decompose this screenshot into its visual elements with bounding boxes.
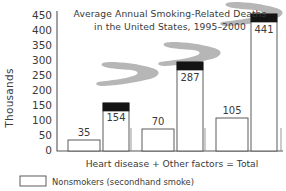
bar-value-heart-disease-smokers: 154 <box>106 112 125 123</box>
bar-value-heart-disease-nonsmokers: 35 <box>78 127 91 138</box>
y-tick-100: 100 <box>32 114 52 126</box>
y-tick-300: 300 <box>32 54 52 66</box>
y-tick-0: 0 <box>45 144 52 156</box>
y-tick-400: 400 <box>32 24 52 36</box>
y-tick-250: 250 <box>32 69 52 81</box>
bar-value-total-smokers: 441 <box>254 24 273 35</box>
bar-value-other-factors-nonsmokers: 70 <box>152 116 165 127</box>
cigarette-cap-heart-disease <box>103 103 129 111</box>
bar-other-factors-nonsmokers[interactable] <box>142 129 174 151</box>
x-axis-caption: Heart disease + Other factors = Total <box>86 158 259 169</box>
y-tick-50: 50 <box>39 129 52 141</box>
chart-svg: Thousands 450 400 350 300 250 200 150 10… <box>0 0 286 191</box>
chart-title-line2: in the United States, 1995–2000 <box>94 21 246 32</box>
smoking-deaths-bar-chart: Thousands 450 400 350 300 250 200 150 10… <box>0 0 286 191</box>
y-tick-450: 450 <box>32 9 52 21</box>
y-axis-title: Thousands <box>3 68 15 129</box>
y-tick-200: 200 <box>32 84 52 96</box>
legend-label-nonsmokers: Nonsmokers (secondhand smoke) <box>52 177 194 187</box>
bar-heart-disease-nonsmokers[interactable] <box>68 140 100 151</box>
bar-total-nonsmokers[interactable] <box>216 118 248 151</box>
y-tick-150: 150 <box>32 99 52 111</box>
chart-title-line1: Average Annual Smoking-Related Deaths <box>74 8 267 19</box>
legend-swatch-nonsmokers <box>20 176 46 186</box>
bar-value-other-factors-smokers: 287 <box>180 72 199 83</box>
smoke-squiggle-1 <box>96 62 158 86</box>
cigarette-cap-other-factors <box>177 62 203 70</box>
bar-value-total-nonsmokers: 105 <box>222 105 241 116</box>
y-tick-350: 350 <box>32 39 52 51</box>
